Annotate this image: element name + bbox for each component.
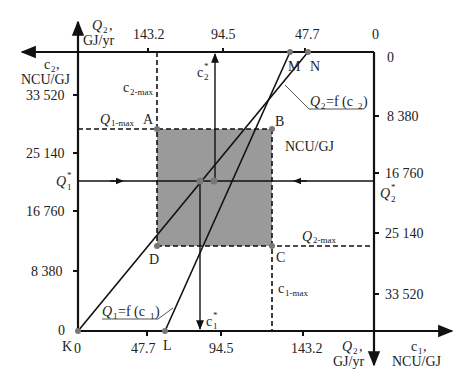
svg-text:,: , [423, 339, 427, 354]
svg-text:2: 2 [321, 101, 326, 111]
top-axis-unit: GJ/yr [83, 33, 114, 48]
c1-axis-label: c [411, 339, 417, 354]
svg-text:1-max: 1-max [111, 118, 134, 128]
svg-text:Q: Q [102, 304, 112, 319]
svg-text:,: , [109, 18, 113, 33]
svg-text:*: * [204, 61, 209, 71]
bottom-tick-143: 143.2 [291, 341, 323, 356]
left-axis-unit: NCU/GJ [21, 72, 71, 87]
top-tick-47: 47.7 [295, 27, 320, 42]
svg-text:*: * [67, 170, 72, 180]
svg-text:): ) [363, 94, 368, 110]
top-axis-q: Q [92, 18, 102, 33]
svg-text:,: , [359, 339, 363, 354]
bottom-tick-94: 94.5 [209, 341, 234, 356]
right-tick-25140: 25 140 [385, 226, 424, 241]
q1-star-label: Q [56, 174, 66, 189]
q2-max-label: Q [302, 229, 312, 244]
bottom-tick-47: 47.7 [131, 341, 156, 356]
left-tick-8380: 8 380 [31, 264, 63, 279]
q1-max-label: Q [100, 112, 110, 127]
point-A: A [143, 112, 154, 127]
equilibrium-diagram: A B C D K L M N Q 2 , GJ/yr 143.2 94.5 4… [0, 0, 472, 390]
function-label-q2: Q 2 =f (c 2 ) [310, 94, 368, 111]
svg-text:1: 1 [67, 182, 72, 192]
svg-text:2: 2 [204, 72, 209, 82]
function-label-q1: Q 1 =f (c 1 ) [102, 304, 160, 321]
svg-text:1: 1 [213, 321, 218, 331]
point-N: N [310, 59, 320, 74]
bottom-tick-0: 0 [74, 341, 81, 356]
point-C: C [276, 250, 285, 265]
c1-axis-unit: NCU/GJ [392, 354, 442, 369]
top-tick-94: 94.5 [211, 27, 236, 42]
svg-text:1-max: 1-max [285, 288, 308, 298]
c1-star-label: c [206, 314, 212, 329]
c1-max-label: c [278, 281, 284, 296]
c2-star-label: c [197, 65, 203, 80]
right-tick-0: 0 [387, 50, 394, 65]
point-K: K [62, 339, 72, 354]
svg-text:2: 2 [391, 194, 396, 204]
svg-text:*: * [391, 182, 396, 192]
right-scale-unit: NCU/GJ [285, 139, 335, 154]
left-tick-33520: 33 520 [26, 88, 65, 103]
left-tick-25140: 25 140 [26, 146, 65, 161]
right-tick-8380: 8 380 [387, 109, 419, 124]
left-axis-c: c [44, 57, 50, 72]
svg-text:2-max: 2-max [313, 235, 336, 245]
right-tick-33520: 33 520 [385, 287, 424, 302]
point-B: B [275, 114, 284, 129]
left-tick-16760: 16 760 [26, 204, 65, 219]
svg-text:2: 2 [358, 101, 363, 111]
svg-text:1: 1 [150, 311, 155, 321]
right-tick-16760: 16 760 [385, 166, 424, 181]
function-curves [78, 52, 308, 331]
svg-text:*: * [213, 310, 218, 320]
top-tick-143: 143.2 [133, 27, 165, 42]
point-D: D [149, 252, 159, 267]
svg-text:Q: Q [310, 94, 320, 109]
c2-max-label: c [123, 80, 129, 95]
top-tick-0: 0 [372, 27, 379, 42]
svg-text:1: 1 [113, 311, 118, 321]
bottom-axis-q: Q [342, 339, 352, 354]
left-tick-0: 0 [58, 323, 65, 338]
svg-text:2-max: 2-max [130, 87, 153, 97]
svg-text:,: , [56, 57, 60, 72]
svg-text:=f (c: =f (c [118, 304, 145, 320]
line-K-N [78, 52, 308, 331]
point-M: M [288, 59, 301, 74]
svg-text:=f (c: =f (c [326, 94, 353, 110]
bottom-axis-unit: GJ/yr [333, 354, 364, 369]
point-L: L [163, 338, 172, 353]
q2-star-label: Q [380, 186, 390, 201]
svg-text:): ) [155, 304, 160, 320]
